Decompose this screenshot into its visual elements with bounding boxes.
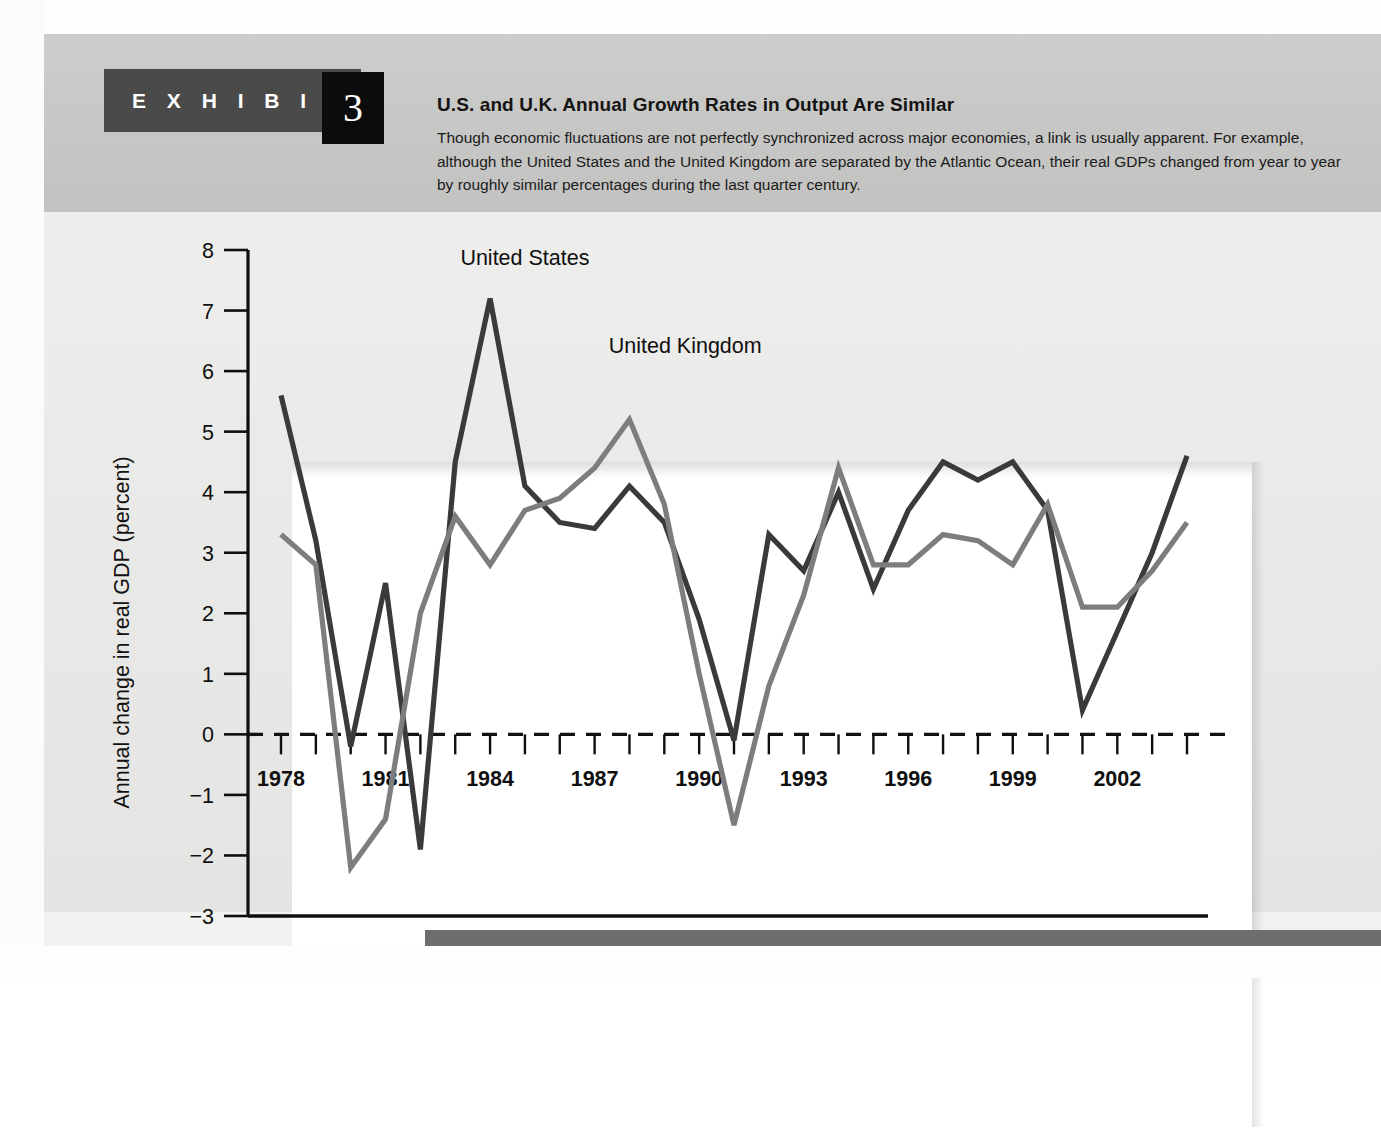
chart-panel: Annual change in real GDP (percent) 8765… [44,212,1381,912]
x-tick-label: 2002 [1093,767,1141,791]
y-tick-label: 7 [202,300,214,324]
x-tick-label: 1984 [466,767,514,791]
y-tick-label: 2 [202,602,214,626]
x-tick-label: 1981 [362,767,410,791]
y-tick-label: −3 [189,905,214,929]
data-series-group [281,298,1187,867]
page-top-margin [0,0,1381,34]
y-tick-label: −2 [189,844,214,868]
y-tick-label: −1 [189,784,214,808]
exhibit-number-box: 3 [322,72,384,144]
series-label-united-states: United States [460,246,589,270]
exhibit-label: E X H I B I T [132,89,347,113]
x-tick-label: 1993 [780,767,828,791]
series-label-united-kingdom: United Kingdom [609,334,762,358]
series-line-united-states [281,298,1187,849]
x-tick-label: 1987 [571,767,619,791]
y-tick-label: 1 [202,663,214,687]
series-line-united-kingdom [281,420,1187,868]
page-title: U.S. and U.K. Annual Growth Rates in Out… [437,94,954,116]
y-tick-label: 3 [202,542,214,566]
line-chart: 876543210−1−2−3 197819811984198719901993… [44,212,1381,912]
page-left-margin [0,0,44,978]
exhibit-description: Though economic fluctuations are not per… [437,126,1342,197]
y-tick-label: 0 [202,723,214,747]
series-annotations: United StatesUnited Kingdom [460,246,761,358]
x-tick-label: 1978 [257,767,305,791]
x-tick-label: 1996 [884,767,932,791]
y-tick-label: 8 [202,239,214,263]
x-tick-label: 1990 [675,767,723,791]
exhibit-number: 3 [343,88,363,128]
y-tick-label: 5 [202,421,214,445]
y-tick-label: 6 [202,360,214,384]
x-tick-label: 1999 [989,767,1037,791]
exhibit-header-band: E X H I B I T 3 U.S. and U.K. Annual Gro… [44,34,1381,212]
page-bottom-margin [0,946,1381,978]
y-axis-ticks: 876543210−1−2−3 [189,239,248,929]
footer-rule [425,930,1381,946]
y-tick-label: 4 [202,481,214,505]
